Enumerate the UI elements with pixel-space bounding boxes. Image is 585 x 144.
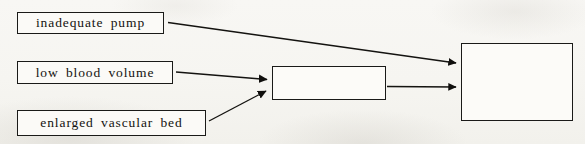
node-low-blood-volume-label: low blood volume xyxy=(31,66,160,80)
edge-enlarged-vascular-bed-to-middle-box xyxy=(209,91,266,121)
node-low-blood-volume[interactable]: low blood volume xyxy=(17,61,173,84)
edge-inadequate-pump-to-right-box xyxy=(168,23,456,64)
edge-low-blood-volume-to-middle-box xyxy=(176,72,267,80)
node-enlarged-vascular-bed[interactable]: enlarged vascular bed xyxy=(17,110,206,136)
edge-middle-box-to-right-box xyxy=(387,87,456,88)
node-right-box[interactable] xyxy=(461,43,573,121)
node-middle-box[interactable] xyxy=(272,66,386,100)
node-enlarged-vascular-bed-label: enlarged vascular bed xyxy=(35,116,187,130)
node-inadequate-pump[interactable]: inadequate pump xyxy=(17,12,164,34)
diagram-canvas: inadequate pump low blood volume enlarge… xyxy=(0,0,585,144)
node-middle-box-label xyxy=(273,69,283,84)
node-inadequate-pump-label: inadequate pump xyxy=(31,16,150,30)
node-right-box-label xyxy=(462,46,472,61)
